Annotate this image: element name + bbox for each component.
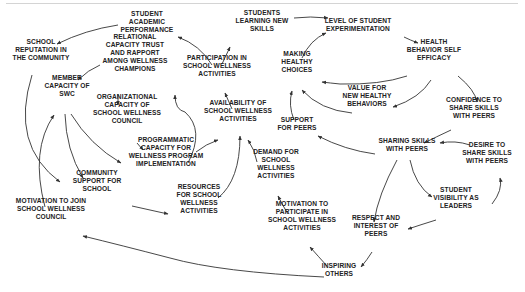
node-label-line: EFFICACY [407, 54, 461, 62]
node-label-line: IMPLEMENTATION [129, 160, 204, 168]
node-label-line: HEALTHY [281, 58, 312, 66]
node-school-reputation: SCHOOLREPUTATION INTHE COMMUNITY [13, 38, 70, 63]
node-label-line: SHARING SKILLS [378, 137, 435, 145]
node-label-line: SHARE SKILLS [446, 104, 502, 112]
node-label-line: ORGANIZATIONAL [93, 93, 161, 101]
node-label-line: CAPACITY TRUST [102, 41, 167, 49]
node-label-line: PEERS [352, 230, 400, 238]
node-label-line: INSPIRING [322, 262, 357, 270]
node-label-line: SCHOOL WELLNESS [268, 216, 336, 224]
node-health-behavior-self-efficacy: HEALTHBEHAVIOR SELFEFFICACY [407, 38, 461, 63]
arrow-motivation-join-swc-to-member-capacity-swc [39, 115, 54, 207]
node-label-line: WELLNESS [253, 164, 299, 172]
node-label-line: ACTIVITIES [177, 207, 222, 215]
node-label-line: ACADEMIC [121, 18, 174, 26]
arrow-students-learning-to-level-experimentation [294, 17, 328, 18]
node-label-line: RESOURCES [177, 183, 222, 191]
node-label-line: LEARNING NEW [236, 17, 289, 25]
node-label-line: COUNCIL [16, 213, 86, 221]
node-label-line: DESIRE TO [462, 141, 512, 149]
node-label-line: LEVEL OF STUDENT [325, 17, 392, 25]
node-label-line: SHARE SKILLS [462, 149, 512, 157]
node-label-line: SCHOOL [13, 38, 70, 46]
node-label-line: ACTIVITIES [204, 115, 272, 123]
node-confidence-share: CONFIDENCE TOSHARE SKILLSWITH PEERS [446, 96, 502, 121]
node-inspiring-others: INSPIRINGOTHERS [322, 262, 357, 278]
node-programmatic-capacity: PROGRAMMATICCAPACITY FORWELLNESS PROGRAM… [129, 136, 204, 169]
causal-loop-diagram: STUDENTACADEMICPERFORMANCESCHOOLREPUTATI… [0, 0, 525, 292]
node-label-line: CONFIDENCE TO [446, 96, 502, 104]
arrow-health-behavior-self-efficacy-to-value-new-behaviors [393, 80, 431, 107]
node-member-capacity-swc: MEMBERCAPACITY OFSWC [44, 74, 89, 99]
arrow-sharing-skills-to-student-visibility [410, 160, 432, 197]
node-label-line: ACTIVITIES [253, 172, 299, 180]
node-label-line: MAKING [281, 50, 312, 58]
node-label-line: SUPPORT [277, 116, 316, 124]
node-participation: PARTICIPATION INSCHOOL WELLNESSACTIVITIE… [183, 54, 251, 79]
node-label-line: PARTICIPATION IN [183, 54, 251, 62]
arrow-respect-interest-to-inspiring-others [361, 252, 372, 267]
node-students-learning: STUDENTSLEARNING NEWSKILLS [236, 9, 289, 34]
node-label-line: WITH PEERS [378, 145, 435, 153]
node-label-line: COMMUNITY [73, 169, 122, 177]
node-label-line: SCHOOL [73, 185, 122, 193]
node-label-line: SWC [44, 90, 89, 98]
node-demand: DEMAND FORSCHOOLWELLNESSACTIVITIES [253, 148, 299, 181]
node-label-line: NEW HEALTHY [343, 92, 392, 100]
node-label-line: CAPACITY OF [44, 82, 89, 90]
node-making-healthy-choices: MAKINGHEALTHYCHOICES [281, 50, 312, 75]
node-label-line: PARTICIPATE IN [268, 208, 336, 216]
arrow-sharing-skills-to-respect-interest [374, 160, 397, 222]
node-community-support: COMMUNITYSUPPORT FORSCHOOL [73, 169, 122, 194]
arrow-community-support-to-resources [132, 206, 168, 214]
node-sharing-skills: SHARING SKILLSWITH PEERS [378, 137, 435, 153]
node-organizational-capacity: ORGANIZATIONALCAPACITY OFSCHOOL WELLNESS… [93, 93, 161, 126]
node-label-line: DEMAND FOR [253, 148, 299, 156]
node-label-line: VISIBILITY AS [433, 194, 478, 202]
node-label-line: STUDENT [121, 10, 174, 18]
node-student-visibility: STUDENTVISIBILITY ASLEADERS [433, 186, 478, 211]
node-label-line: STUDENTS [236, 9, 289, 17]
node-label-line: BEHAVIOR SELF [407, 46, 461, 54]
node-label-line: CHAMPIONS [102, 65, 167, 73]
node-label-line: FOR SCHOOL [177, 191, 222, 199]
node-label-line: REPUTATION IN [13, 46, 70, 54]
node-label-line: SCHOOL WELLNESS [16, 205, 86, 213]
node-label-line: AVAILABILITY OF [204, 99, 272, 107]
arrow-sharing-skills-to-support-for-peers [318, 136, 375, 154]
node-label-line: AMONG WELLNESS [102, 57, 167, 65]
node-motivation-participate: MOTIVATION TOPARTICIPATE INSCHOOL WELLNE… [268, 200, 336, 233]
node-label-line: WELLNESS [177, 199, 222, 207]
node-student-academic-performance: STUDENTACADEMICPERFORMANCE [121, 10, 174, 35]
node-label-line: ACTIVITIES [268, 224, 336, 232]
node-label-line: OTHERS [322, 270, 357, 278]
node-label-line: SKILLS [236, 25, 289, 33]
node-label-line: PROGRAMMATIC [129, 136, 204, 144]
node-label-line: SCHOOL WELLNESS [93, 109, 161, 117]
node-label-line: FOR PEERS [277, 124, 316, 132]
node-availability: AVAILABILITY OFSCHOOL WELLNESSACTIVITIES [204, 99, 272, 124]
node-label-line: SCHOOL [253, 156, 299, 164]
node-level-experimentation: LEVEL OF STUDENTEXPERIMENTATION [325, 17, 392, 33]
node-label-line: CAPACITY OF [93, 101, 161, 109]
node-desire-share: DESIRE TOSHARE SKILLSWITH PEERS [462, 141, 512, 166]
node-label-line: EXPERIMENTATION [325, 25, 392, 33]
node-relational-capacity: RELATIONALCAPACITY TRUSTAND RAPPORTAMONG… [102, 33, 167, 74]
node-label-line: CAPACITY FOR [129, 144, 204, 152]
node-label-line: SUPPORT FOR [73, 177, 122, 185]
node-label-line: COUNCIL [93, 117, 161, 125]
node-motivation-join-swc: MOTIVATION TO JOINSCHOOL WELLNESSCOUNCIL [16, 197, 86, 222]
node-label-line: VALUE FOR [343, 84, 392, 92]
node-label-line: INTEREST OF [352, 222, 400, 230]
node-label-line: RESPECT AND [352, 214, 400, 222]
node-label-line: SCHOOL WELLNESS [183, 62, 251, 70]
node-label-line: HEALTH [407, 38, 461, 46]
node-label-line: STUDENT [433, 186, 478, 194]
node-label-line: ACTIVITIES [183, 70, 251, 78]
node-respect-interest: RESPECT ANDINTEREST OFPEERS [352, 214, 400, 239]
node-label-line: CHOICES [281, 66, 312, 74]
node-label-line: THE COMMUNITY [13, 54, 70, 62]
arrow-inspiring-others-to-motivation-join-swc [83, 236, 324, 277]
node-value-new-behaviors: VALUE FORNEW HEALTHYBEHAVIORS [343, 84, 392, 109]
node-label-line: BEHAVIORS [343, 100, 392, 108]
